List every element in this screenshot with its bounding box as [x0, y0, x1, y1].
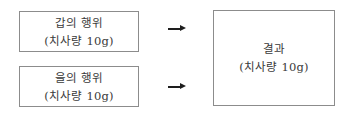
gap-action-dose: (치사량 10g) — [44, 32, 113, 50]
eul-action-dose: (치사량 10g) — [44, 87, 113, 105]
right-arrow-icon — [168, 86, 186, 88]
eul-action-title: 을의 행위 — [55, 69, 104, 87]
result-dose: (치사량 10g) — [239, 58, 308, 76]
right-arrow-icon — [168, 28, 186, 30]
result-title: 결과 — [263, 40, 285, 58]
eul-action-box: 을의 행위 (치사량 10g) — [19, 66, 139, 107]
result-box: 결과 (치사량 10g) — [213, 10, 335, 106]
gap-action-box: 갑의 행위 (치사량 10g) — [19, 11, 139, 52]
gap-action-title: 갑의 행위 — [55, 14, 104, 32]
